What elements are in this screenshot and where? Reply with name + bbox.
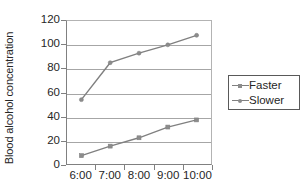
x-tick-mark [154,165,155,170]
y-tick-mark [61,165,66,166]
legend-item-slower: Slower [232,93,299,108]
x-tick-label: 10:00 [177,170,217,182]
data-point [137,136,141,140]
series-layer [67,21,211,164]
series-line-slower [81,35,196,99]
y-tick-label: 100 [30,38,60,50]
y-tick-label: 0 [30,159,60,171]
y-tick-label: 60 [30,87,60,99]
legend: Faster Slower [228,75,300,110]
data-point [79,154,83,158]
x-tick-mark [183,165,184,170]
x-tick-mark [95,165,96,170]
y-tick-label: 80 [30,63,60,75]
legend-item-faster: Faster [232,78,299,93]
data-point [195,118,199,122]
data-point [166,125,170,129]
chart-figure: Blood alcohol concentration 020406080100… [0,0,304,196]
data-point [195,33,199,37]
data-point [108,61,112,65]
data-point [79,98,83,102]
y-tick-label: 20 [30,135,60,147]
data-point [108,144,112,148]
x-tick-mark [124,165,125,170]
data-point [137,51,141,55]
y-axis-tick-labels: 020406080100120 [26,0,60,196]
faster-marker-icon [232,81,249,90]
x-tick-mark [212,165,213,170]
data-point [166,43,170,47]
legend-label-slower: Slower [249,95,284,107]
y-axis-title: Blood alcohol concentration [0,0,18,196]
plot-area [66,20,212,165]
slower-marker-icon [232,96,249,105]
y-tick-label: 120 [30,14,60,26]
legend-label-faster: Faster [249,80,282,92]
y-tick-label: 40 [30,111,60,123]
